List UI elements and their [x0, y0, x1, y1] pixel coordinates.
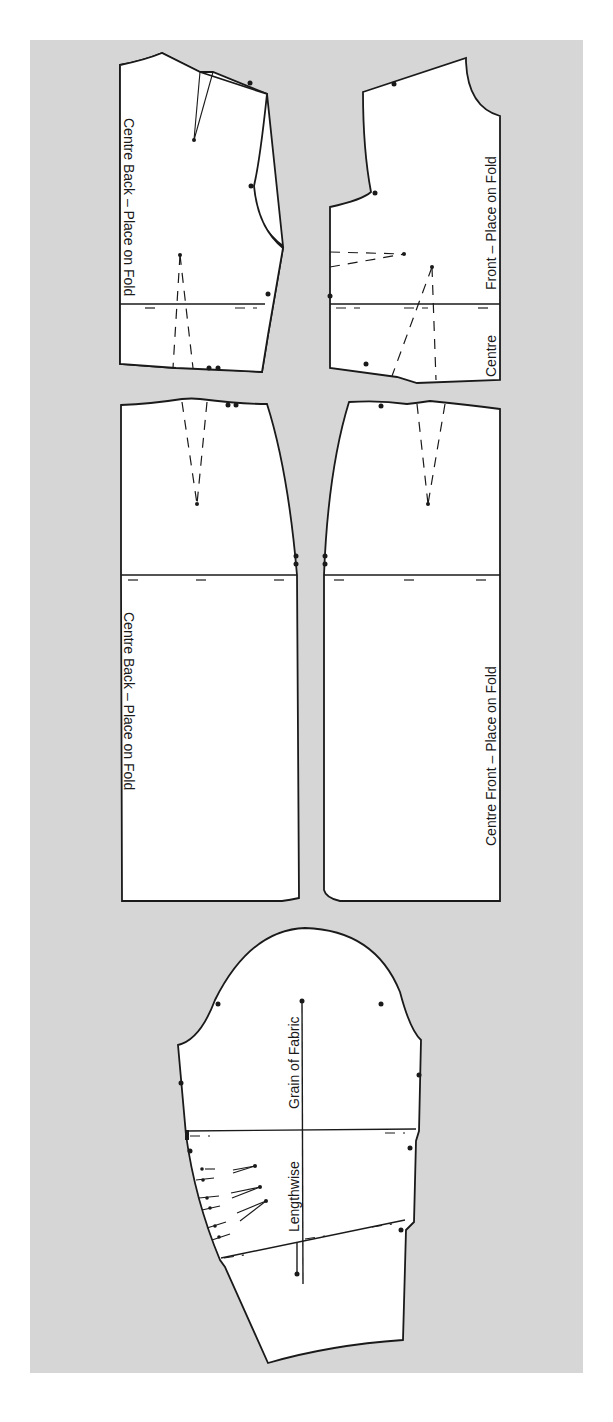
- front-bodice-label: Front – Place on Fold: [483, 156, 499, 290]
- front-bodice-piece: Front – Place on Fold Centre: [328, 58, 501, 383]
- front-bodice-centre-label: Centre: [483, 335, 499, 377]
- front-skirt-piece: Centre Front – Place on Fold: [323, 401, 501, 901]
- back-skirt-label: Centre Back – Place on Fold: [121, 612, 137, 790]
- back-bodice-label: Centre Back – Place on Fold: [121, 118, 137, 296]
- front-skirt-label: Centre Front – Place on Fold: [483, 666, 499, 846]
- sleeve-piece: Grain of Fabric Lengthwise: [178, 928, 422, 1363]
- grain-of-fabric-label: Grain of Fabric: [286, 1016, 302, 1109]
- lengthwise-label: Lengthwise: [286, 1161, 302, 1232]
- back-skirt-piece: Centre Back – Place on Fold: [121, 399, 299, 902]
- back-bodice-piece: Centre Back – Place on Fold: [120, 53, 283, 372]
- sewing-pattern-diagram: Centre Back – Place on Fold Front – Plac…: [0, 0, 613, 1422]
